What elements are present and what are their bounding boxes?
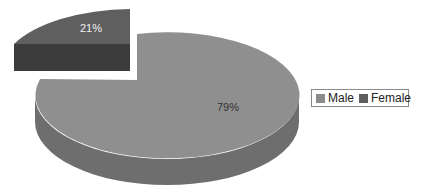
legend-label-female: Female bbox=[371, 91, 411, 105]
male-swatch-icon bbox=[316, 94, 325, 103]
female-slice-side bbox=[14, 44, 130, 71]
legend: Male Female bbox=[311, 89, 409, 107]
legend-item-female: Female bbox=[359, 91, 411, 105]
female-percent-label: 21% bbox=[80, 22, 102, 34]
female-swatch-icon bbox=[359, 94, 368, 103]
legend-label-male: Male bbox=[328, 91, 354, 105]
male-percent-label: 79% bbox=[217, 101, 239, 113]
legend-item-male: Male bbox=[316, 91, 354, 105]
female-slice bbox=[14, 9, 130, 44]
